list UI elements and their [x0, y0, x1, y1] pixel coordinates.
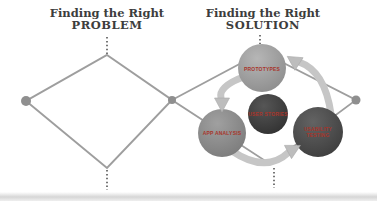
problem-title: Finding the Right PROBLEM	[37, 7, 177, 31]
center-junction-dot	[168, 96, 176, 104]
arrowhead-into-prototypes	[283, 50, 303, 70]
arc-usability-to-prototypes	[299, 62, 331, 114]
problem-title-line2: PROBLEM	[37, 19, 177, 31]
problem-diamond	[26, 55, 172, 168]
left-corner-dot	[21, 96, 31, 106]
usability-testing-circle	[293, 107, 343, 157]
app-analysis-circle	[198, 109, 246, 157]
solution-title: Finding the Right SOLUTION	[193, 7, 333, 31]
solution-title-line2: SOLUTION	[193, 19, 333, 31]
double-diamond-diagram: Finding the Right PROBLEM Finding the Ri…	[0, 0, 377, 201]
right-corner-dot	[352, 96, 361, 105]
prototypes-circle	[238, 44, 286, 92]
page-fold-shadow	[0, 192, 377, 201]
user-stories-circle	[248, 94, 288, 134]
